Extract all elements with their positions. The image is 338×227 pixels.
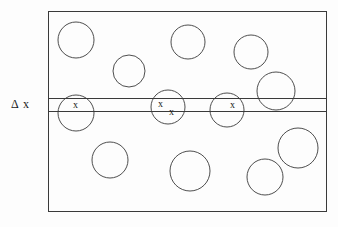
circle-bottom-right (247, 159, 283, 195)
circle-right-upper (257, 72, 295, 110)
circle-bottom-left (92, 142, 128, 178)
circle-bottom-middle (170, 151, 210, 191)
delta-x-label: Δ x (11, 98, 30, 110)
circle-top-middle (171, 25, 205, 59)
circle-right-lower (278, 128, 318, 168)
particle-circles-group (58, 22, 318, 195)
delta-x-strip (48, 99, 326, 112)
x-mark-strip-left: x (73, 100, 78, 110)
circle-top-left (58, 22, 94, 58)
x-mark-strip-middle-lower: x (169, 107, 174, 117)
circle-top-right (234, 35, 268, 69)
circle-upper-mid-left (113, 55, 145, 87)
x-mark-strip-middle-upper: x (158, 99, 163, 109)
x-mark-strip-right: x (230, 100, 235, 110)
circle-strip-middle (151, 90, 185, 124)
